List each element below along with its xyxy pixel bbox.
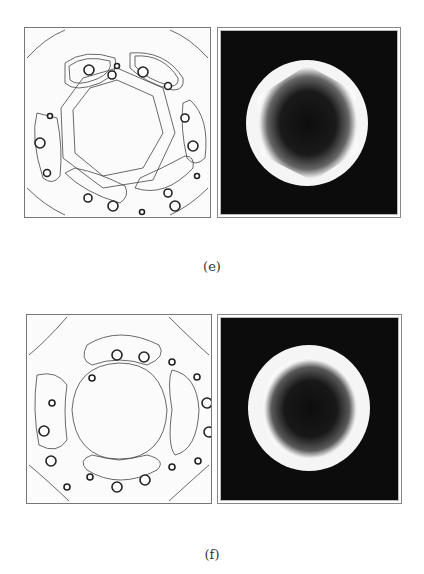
figure-e-caption: (e)	[0, 259, 424, 274]
density-ring-square	[221, 318, 398, 500]
figure-e-density-plot	[217, 27, 401, 218]
density-ring-hexagonal	[221, 31, 397, 214]
figure-e-contour-plot	[24, 27, 211, 218]
density-plot-area	[220, 30, 398, 215]
density-plot-area	[220, 317, 399, 501]
figure-f-density-plot	[217, 314, 402, 504]
contour-lines-hexagonal	[25, 28, 210, 217]
contour-lines-square	[27, 315, 211, 503]
figure-f-contour-plot	[26, 314, 212, 504]
figure-f-caption: (f)	[0, 547, 424, 562]
